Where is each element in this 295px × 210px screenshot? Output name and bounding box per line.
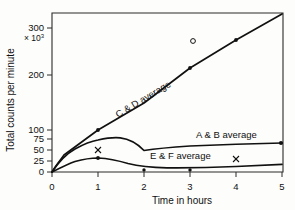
y-axis-title: Total counts per minute	[5, 48, 16, 152]
x-axis-ticks	[52, 172, 282, 177]
series-label-e-and-f: E & F average	[150, 150, 211, 161]
series-label-a-and-b: A & B average	[196, 129, 257, 140]
y-ticklabel-200: 200	[28, 69, 44, 80]
marker-c-and-d-x4	[234, 38, 238, 42]
x-ticklabel-2: 2	[141, 181, 146, 192]
marker-a-and-b-x1	[95, 147, 101, 153]
marker-e-and-f-x3	[188, 168, 191, 171]
x-ticklabel-4: 4	[233, 181, 238, 192]
y-ticklabel-300: 300	[28, 22, 44, 33]
chart-plot-area: 300 200 100 75 50 25 0 × 103 0 1 2 3 4 5…	[0, 0, 295, 210]
x-axis-title: Time in hours	[152, 195, 212, 206]
marker-c-and-d-x3	[188, 66, 192, 70]
marker-outlier-open-circle	[191, 39, 196, 44]
x-ticklabel-5: 5	[279, 181, 284, 192]
y-axis-exponent: × 103	[24, 33, 45, 43]
chart-figure: 300 200 100 75 50 25 0 × 103 0 1 2 3 4 5…	[0, 0, 295, 210]
y-ticklabel-75: 75	[33, 133, 44, 144]
y-ticklabel-50: 50	[33, 144, 44, 155]
y-axis-ticks	[47, 28, 52, 172]
marker-e-and-f-x4	[233, 156, 239, 162]
y-ticklabel-0: 0	[39, 166, 44, 177]
marker-c-and-d-x1	[96, 128, 100, 132]
y-axis-exponent-base: × 10	[24, 33, 41, 43]
marker-e-and-f-x1	[96, 156, 100, 160]
y-ticklabel-25: 25	[33, 155, 44, 166]
x-ticklabel-0: 0	[49, 181, 54, 192]
y-axis-exponent-superscript: 3	[41, 33, 45, 39]
series-label-c-and-d: C & D average	[113, 78, 172, 120]
marker-a-and-b-x5	[279, 141, 283, 145]
x-ticklabel-3: 3	[187, 181, 192, 192]
x-ticklabel-1: 1	[95, 181, 100, 192]
marker-e-and-f-x2	[142, 168, 145, 171]
